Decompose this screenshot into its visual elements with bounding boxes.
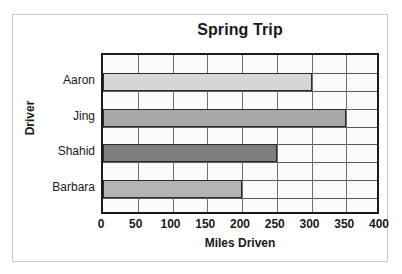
grid-line-horizontal [103, 162, 377, 163]
y-tick-label-aaron: Aaron [63, 73, 95, 87]
y-tick-label-barbara: Barbara [52, 180, 95, 194]
x-tick-label-250: 250 [265, 217, 285, 231]
grid-line-horizontal [103, 198, 377, 199]
y-tick-label-jing: Jing [73, 109, 95, 123]
x-tick-label-400: 400 [369, 217, 389, 231]
bar-aaron [103, 73, 312, 91]
chart-figure: Spring Trip Driver AaronJingShahidBarbar… [12, 14, 388, 262]
grid-line-horizontal [103, 127, 377, 128]
bar-shahid [103, 144, 277, 162]
grid-line-horizontal [103, 91, 377, 92]
bar-jing [103, 109, 346, 127]
x-tick-label-0: 0 [98, 217, 105, 231]
chart-title: Spring Trip [101, 21, 379, 39]
grid-line-vertical [312, 55, 313, 212]
x-tick-label-200: 200 [230, 217, 250, 231]
y-tick-label-shahid: Shahid [58, 144, 95, 158]
x-tick-label-100: 100 [160, 217, 180, 231]
grid-line-vertical [346, 55, 347, 212]
x-tick-label-150: 150 [195, 217, 215, 231]
plot-inner [103, 55, 377, 212]
x-tick-label-350: 350 [334, 217, 354, 231]
bar-barbara [103, 180, 242, 198]
x-tick-label-300: 300 [299, 217, 319, 231]
x-axis-tick-labels: 050100150200250300350400 [101, 217, 379, 235]
y-axis-tick-labels: AaronJingShahidBarbara [13, 53, 95, 214]
plot-area [101, 53, 379, 214]
x-tick-label-50: 50 [129, 217, 142, 231]
x-axis-title: Miles Driven [101, 236, 379, 250]
